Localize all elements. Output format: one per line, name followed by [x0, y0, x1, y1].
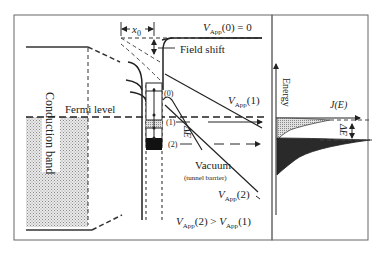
- fermi-level-label: Fermi level: [65, 103, 115, 115]
- vapp-comparison-label: VApp(2) > VApp(1): [176, 215, 251, 230]
- delta-e-right-label: ΔE: [338, 123, 349, 136]
- energy-axis-label: Energy: [281, 78, 292, 107]
- je-peak-1: [277, 118, 330, 140]
- level-1-label: (1): [166, 118, 176, 127]
- conduction-band-label: Conduction band: [43, 92, 57, 174]
- barrier-vapp1: [163, 74, 262, 150]
- x0-label: x0: [131, 23, 141, 38]
- delta-e-left-label: ΔE: [182, 125, 193, 138]
- vapp2-label: VApp(2): [218, 188, 250, 203]
- level-0-label: (0): [164, 89, 174, 98]
- level-2-label: (2): [168, 140, 178, 149]
- vapp1-label: VApp(1): [228, 94, 260, 109]
- field-emission-diagram: Conduction band Fermi level x0 VApp(0) =…: [0, 0, 388, 253]
- vacuum-label: Vacuum: [195, 159, 231, 171]
- je-axis-label: J(E): [330, 99, 348, 111]
- conduction-band: [26, 47, 122, 230]
- tunnel-barrier-label: (tunnel barrier): [184, 174, 227, 182]
- energy-levels-box: [146, 83, 162, 150]
- je-peak-2: [277, 138, 370, 175]
- vapp0-label: VApp(0) = 0: [203, 21, 252, 36]
- field-shift-label: Field shift: [180, 43, 225, 55]
